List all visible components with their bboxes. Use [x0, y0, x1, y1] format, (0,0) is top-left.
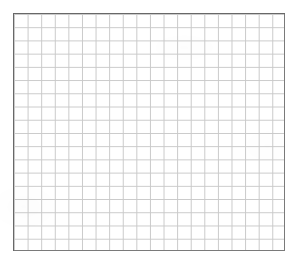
empty-grid[interactable] — [13, 13, 285, 251]
grid-canvas — [0, 0, 297, 265]
